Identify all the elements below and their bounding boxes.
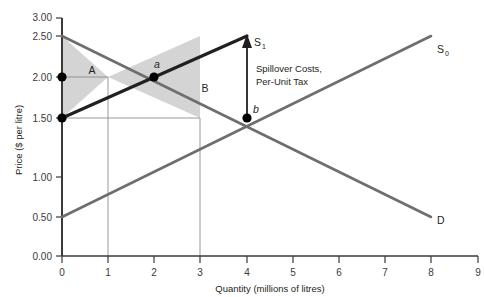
region-a-label: A <box>88 64 95 76</box>
x-tick-label-0: 0 <box>59 267 65 278</box>
point-price-150-marker <box>57 113 66 122</box>
y-tick-label-250: 2.50 <box>33 31 53 42</box>
x-tick-label-3: 3 <box>197 267 203 278</box>
spillover-annotation-line1: Spillover Costs, <box>256 63 322 74</box>
curve-d-label: D <box>437 214 445 226</box>
y-tick-label-200: 2.00 <box>33 72 53 83</box>
x-tick-label-7: 7 <box>382 267 388 278</box>
y-tick-label-050: 0.50 <box>33 212 53 223</box>
x-tick-label-6: 6 <box>336 267 342 278</box>
x-tick-label-9: 9 <box>475 267 481 278</box>
y-tick-labels: 3.00 2.50 2.00 1.50 1.00 0.50 0.00 <box>33 12 53 262</box>
y-tick-label-300: 3.00 <box>33 12 53 23</box>
x-tick-label-5: 5 <box>290 267 296 278</box>
point-price-200-marker <box>57 72 66 81</box>
x-tick-label-4: 4 <box>244 267 250 278</box>
point-b-marker <box>242 113 251 122</box>
point-a-label: a <box>154 58 160 70</box>
curve-s1-label: S <box>254 36 261 48</box>
y-tick-label-000: 0.00 <box>33 251 53 262</box>
point-a-marker <box>149 72 158 81</box>
curve-s0-sublabel: 0 <box>445 50 449 57</box>
x-axis-title: Quantity (millions of litres) <box>215 283 324 294</box>
curve-s0-label: S <box>437 43 444 55</box>
curve-label-s1: S 1 <box>254 36 266 50</box>
chart-canvas: 3.00 2.50 2.00 1.50 1.00 0.50 0.00 0 1 2… <box>0 0 484 297</box>
x-tick-label-2: 2 <box>151 267 157 278</box>
point-b-label: b <box>253 103 259 115</box>
y-axis-title: Price ($ per litre) <box>13 105 24 175</box>
x-tick-label-1: 1 <box>105 267 111 278</box>
y-tick-label-100: 1.00 <box>33 172 53 183</box>
x-axis-ticks <box>62 256 478 263</box>
supply-demand-chart: 3.00 2.50 2.00 1.50 1.00 0.50 0.00 0 1 2… <box>0 0 484 297</box>
spillover-annotation-line2: Per-Unit Tax <box>256 76 308 87</box>
curve-s1-sublabel: 1 <box>262 43 266 50</box>
x-tick-label-8: 8 <box>428 267 434 278</box>
spillover-annotation: Spillover Costs, Per-Unit Tax <box>256 63 322 87</box>
y-tick-label-150: 1.50 <box>33 113 53 124</box>
spillover-arrow <box>242 34 252 118</box>
x-tick-labels: 0 1 2 3 4 5 6 7 8 9 <box>59 267 481 278</box>
curve-label-s0: S 0 <box>437 43 449 57</box>
region-b-label: B <box>201 82 208 94</box>
